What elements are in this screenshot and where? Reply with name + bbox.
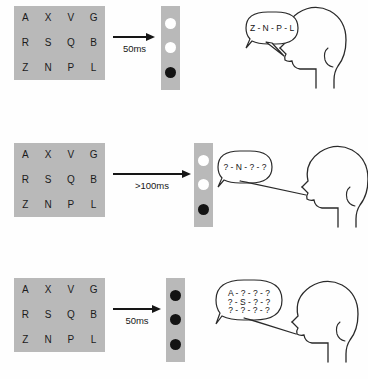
speech-bubble-3 — [210, 272, 368, 358]
partial-report-figure: A X V G R S Q B Z N P L 50ms — [0, 0, 368, 379]
grid-cell: G — [90, 285, 98, 295]
grid-cell: V — [67, 150, 74, 160]
grid-cell: L — [91, 200, 97, 210]
arrow-head-icon — [146, 33, 155, 41]
cue-dot-middle — [170, 314, 181, 325]
cue-dot-middle — [165, 42, 176, 53]
grid-cell: A — [22, 13, 29, 23]
grid-cell: V — [67, 285, 74, 295]
grid-cell: P — [67, 200, 74, 210]
report-text-1: Z - N - P - L — [246, 24, 298, 33]
trial-row-1: A X V G R S Q B Z N P L 50ms — [0, 0, 368, 120]
report-text-2: ? - N - ? - ? — [218, 163, 272, 172]
grid-cell: P — [67, 63, 74, 73]
grid-cell: N — [44, 200, 51, 210]
grid-cell: N — [44, 63, 51, 73]
trial-row-3: A X V G R S Q B Z N P L 50ms — [0, 268, 368, 379]
grid-cell: N — [44, 335, 51, 345]
grid-cell: R — [22, 38, 29, 48]
report-line: ? - ? - ? - ? — [218, 306, 280, 315]
cue-dot-top — [165, 18, 176, 29]
speaker-1: Z - N - P - L — [206, 2, 366, 88]
report-text-3: A - ? - ? - ? ? - S - ? - ? ? - ? - ? - … — [218, 289, 280, 315]
grid-cell: B — [90, 175, 97, 185]
trial-row-2: A X V G R S Q B Z N P L >100ms — [0, 135, 368, 255]
grid-cell: B — [90, 38, 97, 48]
cue-dot-top — [170, 290, 181, 301]
arrow-line-icon — [113, 173, 183, 175]
grid-cell: G — [90, 13, 98, 23]
cue-dot-strip-1 — [161, 6, 180, 90]
grid-cell: X — [45, 285, 52, 295]
grid-cell: S — [45, 175, 52, 185]
cue-dot-bottom — [165, 67, 176, 78]
grid-cell: A — [22, 150, 29, 160]
grid-cell: S — [45, 38, 52, 48]
report-line: ? - N - ? - ? — [218, 163, 272, 172]
speaker-2: ? - N - ? - ? — [212, 139, 368, 225]
grid-cell: R — [22, 310, 29, 320]
grid-cell: X — [45, 150, 52, 160]
speech-bubble-2 — [212, 139, 368, 225]
arrow-line-icon — [113, 308, 153, 310]
grid-cell: Z — [22, 200, 28, 210]
cue-dot-bottom — [170, 339, 181, 350]
grid-cell: Q — [67, 38, 75, 48]
grid-cell: Z — [22, 63, 28, 73]
grid-cell: L — [91, 335, 97, 345]
duration-label: 50ms — [113, 43, 156, 54]
speaker-3: A - ? - ? - ? ? - S - ? - ? ? - ? - ? - … — [210, 272, 368, 358]
cue-dot-top — [198, 155, 209, 166]
cue-dot-strip-2 — [194, 143, 213, 227]
grid-cell: Z — [22, 335, 28, 345]
arrow-head-icon — [152, 305, 161, 313]
cue-dot-bottom — [198, 204, 209, 215]
grid-cell: R — [22, 175, 29, 185]
arrow-line-icon — [113, 36, 147, 38]
grid-cell: V — [67, 13, 74, 23]
cue-dot-strip-3 — [166, 278, 185, 362]
grid-cell: S — [45, 310, 52, 320]
letter-grid-3: A X V G R S Q B Z N P L — [14, 278, 105, 352]
grid-cell: G — [90, 150, 98, 160]
letter-grid-1: A X V G R S Q B Z N P L — [14, 6, 105, 80]
report-line: Z - N - P - L — [246, 24, 298, 33]
grid-cell: Q — [67, 310, 75, 320]
grid-cell: A — [22, 285, 29, 295]
letter-grid-2: A X V G R S Q B Z N P L — [14, 143, 105, 217]
grid-cell: X — [45, 13, 52, 23]
grid-cell: P — [67, 335, 74, 345]
duration-label: >100ms — [113, 180, 191, 191]
duration-label: 50ms — [113, 315, 161, 326]
grid-cell: Q — [67, 175, 75, 185]
cue-dot-middle — [198, 179, 209, 190]
grid-cell: B — [90, 310, 97, 320]
grid-cell: L — [91, 63, 97, 73]
arrow-head-icon — [182, 170, 191, 178]
speech-bubble-1 — [206, 2, 366, 88]
